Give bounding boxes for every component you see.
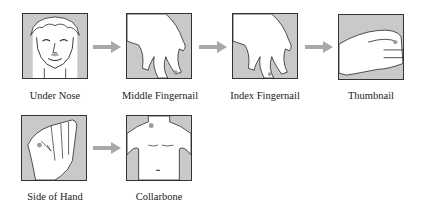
step-middle-fingernail-image: [126, 13, 192, 79]
step-index-fingernail-image: [232, 13, 298, 79]
step-label: Under Nose: [0, 90, 110, 101]
arrow-right-icon: [93, 41, 121, 53]
arrow-right-icon: [199, 41, 227, 53]
face-icon: [23, 14, 87, 78]
step-under-nose-image: [22, 13, 88, 79]
arrow-right-icon: [93, 142, 121, 154]
step-label: Middle Fingernail: [105, 90, 215, 101]
step-label: Index Fingernail: [210, 90, 320, 101]
step-collarbone-image: [126, 115, 192, 181]
step-thumbnail-image: [338, 14, 404, 80]
torso-collarbone-icon: [127, 116, 191, 180]
step-label: Thumbnail: [316, 90, 426, 101]
step-label: Collarbone: [104, 191, 214, 202]
step-label: Side of Hand: [0, 191, 110, 202]
hand-index-finger-icon: [233, 14, 297, 78]
arrow-right-icon: [305, 41, 333, 53]
step-side-of-hand-image: [21, 115, 87, 181]
fist-side-icon: [22, 116, 86, 180]
hand-thumb-icon: [339, 15, 403, 79]
hand-middle-finger-icon: [127, 14, 191, 78]
